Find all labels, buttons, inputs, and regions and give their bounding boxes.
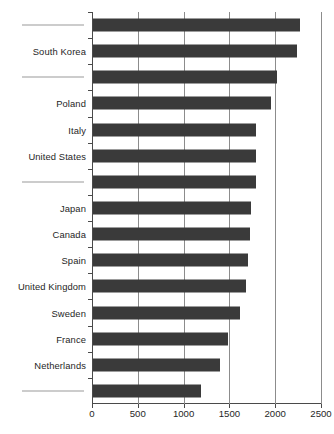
category-label: Sweden [0,307,86,318]
x-axis-tick-labels: 05001000150020002500 [92,408,332,424]
bar [93,71,277,84]
y-tick [88,143,92,144]
bar [93,384,201,397]
y-tick [88,299,92,300]
gridline-2500 [321,12,322,404]
bar [93,358,220,371]
y-tick [88,38,92,39]
redacted-category-label [22,390,84,391]
y-tick [88,273,92,274]
bar [93,45,297,58]
bar [93,280,246,293]
category-label: South Korea [0,46,86,57]
redacted-category-label [22,25,84,26]
x-tick-label-0: 0 [89,408,94,420]
category-label: Spain [0,255,86,266]
x-tick-label-1000: 1000 [173,408,194,420]
y-tick [88,169,92,170]
y-tick [88,221,92,222]
category-label: Poland [0,98,86,109]
bar [93,19,300,32]
y-tick [88,117,92,118]
x-tick-label-2000: 2000 [265,408,286,420]
y-tick [88,247,92,248]
category-label: Japan [0,203,86,214]
bar [93,175,256,188]
category-label: France [0,333,86,344]
y-tick [88,352,92,353]
category-label-column: South KoreaPolandItalyUnited StatesJapan… [0,12,86,404]
plot-area [92,12,321,404]
bar [93,228,250,241]
category-label: Italy [0,124,86,135]
bar [93,149,256,162]
y-tick [88,195,92,196]
y-tick [88,64,92,65]
bar [93,123,256,136]
x-tick-label-500: 500 [130,408,146,420]
redacted-category-label [22,181,84,182]
bar [93,202,251,215]
y-tick [88,90,92,91]
y-tick [88,378,92,379]
bar [93,332,228,345]
x-tick-label-1500: 1500 [219,408,240,420]
y-tick [88,326,92,327]
bar [93,306,240,319]
category-label: United States [0,150,86,161]
category-label: Canada [0,229,86,240]
x-tick-label-2500: 2500 [310,408,331,420]
bar [93,97,271,110]
category-label: United Kingdom [0,281,86,292]
category-label: Netherlands [0,359,86,370]
redacted-category-label [22,77,84,78]
y-tick [88,12,92,13]
bar-chart: South KoreaPolandItalyUnited StatesJapan… [0,0,334,434]
bar [93,254,248,267]
